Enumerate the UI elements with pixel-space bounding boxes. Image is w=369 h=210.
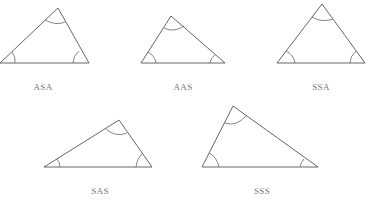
label-sss: SSS bbox=[254, 186, 270, 196]
triangle-congruence-diagram bbox=[0, 0, 369, 210]
angle-arc-right bbox=[350, 51, 356, 63]
angle-arc-left bbox=[209, 153, 219, 167]
label-aas: AAS bbox=[174, 82, 193, 92]
angle-arc-right bbox=[136, 153, 143, 167]
label-ssa: SSA bbox=[312, 82, 329, 92]
angle-arc-left bbox=[12, 52, 15, 63]
label-asa: ASA bbox=[34, 82, 53, 92]
triangle-ssa bbox=[277, 4, 365, 63]
label-sas: SAS bbox=[91, 186, 108, 196]
angle-arc-left bbox=[286, 51, 295, 63]
angle-arc-apex bbox=[45, 20, 65, 24]
triangle-sas bbox=[44, 120, 152, 167]
angle-arc-left bbox=[57, 159, 60, 167]
angle-arc-right bbox=[210, 55, 215, 63]
triangle-asa bbox=[0, 8, 89, 63]
angle-arc-right bbox=[300, 159, 304, 167]
angle-arc-right bbox=[73, 51, 79, 63]
angle-arc-apex bbox=[105, 128, 127, 135]
angle-arc-apex bbox=[225, 116, 246, 124]
triangle-aas bbox=[141, 16, 225, 63]
angle-arc-apex bbox=[312, 17, 333, 21]
angle-arc-left bbox=[148, 52, 156, 63]
angle-arc-apex bbox=[164, 26, 184, 30]
triangle-sss bbox=[202, 106, 318, 167]
